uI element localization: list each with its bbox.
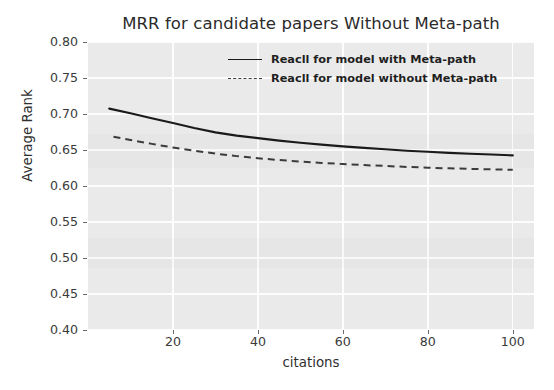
legend-solid-line-icon xyxy=(228,54,262,66)
line-series-with-meta-path xyxy=(109,109,513,156)
x-tick-label: 40 xyxy=(235,334,281,349)
chart-figure: MRR for candidate papers Without Meta-pa… xyxy=(0,0,554,390)
legend-dashed-line-icon xyxy=(228,73,262,85)
x-tick-mark xyxy=(258,330,259,334)
y-tick-label: 0.50 xyxy=(32,250,78,265)
y-tick-mark xyxy=(83,150,87,151)
legend-item-without-meta-path: Reacll for model without Meta-path xyxy=(228,69,497,88)
x-tick-mark xyxy=(343,330,344,334)
legend-item-with-meta-path: Reacll for model with Meta-path xyxy=(228,50,497,69)
x-tick-label: 60 xyxy=(320,334,366,349)
y-tick-mark xyxy=(83,114,87,115)
legend-label-with-meta-path: Reacll for model with Meta-path xyxy=(271,50,476,69)
y-tick-mark xyxy=(83,222,87,223)
plot-area: Reacll for model with Meta-path Reacll f… xyxy=(88,42,534,330)
x-tick-mark xyxy=(173,330,174,334)
x-tick-mark xyxy=(428,330,429,334)
y-tick-label: 0.55 xyxy=(32,214,78,229)
x-axis-label: citations xyxy=(88,355,534,370)
y-tick-mark xyxy=(83,42,87,43)
x-tick-label: 80 xyxy=(405,334,451,349)
y-tick-label: 0.75 xyxy=(32,70,78,85)
x-tick-mark xyxy=(513,330,514,334)
y-tick-label: 0.45 xyxy=(32,286,78,301)
y-tick-label: 0.70 xyxy=(32,106,78,121)
legend-label-without-meta-path: Reacll for model without Meta-path xyxy=(271,69,497,88)
y-tick-mark xyxy=(83,258,87,259)
y-tick-label: 0.65 xyxy=(32,142,78,157)
chart-title: MRR for candidate papers Without Meta-pa… xyxy=(88,14,534,33)
chart-legend: Reacll for model with Meta-path Reacll f… xyxy=(228,50,497,88)
y-tick-label: 0.40 xyxy=(32,322,78,337)
y-tick-mark xyxy=(83,294,87,295)
y-tick-label: 0.60 xyxy=(32,178,78,193)
x-tick-label: 100 xyxy=(490,334,536,349)
y-tick-mark xyxy=(83,330,87,331)
y-tick-mark xyxy=(83,186,87,187)
y-tick-mark xyxy=(83,78,87,79)
y-tick-label: 0.80 xyxy=(32,34,78,49)
x-tick-label: 20 xyxy=(150,334,196,349)
y-axis-label: Average Rank xyxy=(20,61,35,211)
